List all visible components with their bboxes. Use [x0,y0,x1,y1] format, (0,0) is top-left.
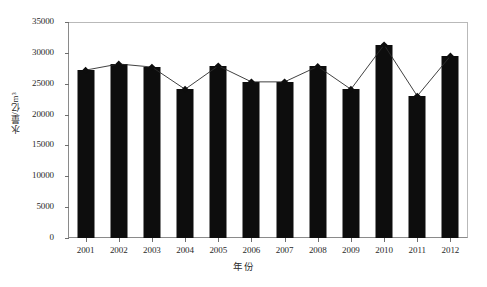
bar-slot [268,22,301,238]
chart-container: 水量/亿m³ 050001000015000200002500030000350… [0,0,487,287]
bar-series [69,22,467,238]
bar-slot [434,22,467,238]
x-axis-tick-mark [351,238,352,242]
y-axis-tick-label: 20000 [2,110,54,119]
bar-slot [169,22,202,238]
bar [210,66,227,238]
bar-slot [235,22,268,238]
x-axis-tick-mark [450,238,451,242]
bar-slot [135,22,168,238]
x-axis-tick-mark [185,238,186,242]
bar [309,66,326,238]
x-axis-title: 年份 [0,262,487,273]
x-axis-tick-mark [251,238,252,242]
y-axis-tick-label: 30000 [2,48,54,57]
x-axis-tick-mark [318,238,319,242]
x-axis-tick-mark [86,238,87,242]
bar-slot [202,22,235,238]
bar [442,56,459,238]
bar [110,64,127,238]
bar [409,96,426,238]
x-axis-tick-label: 2012 [430,245,470,255]
bar-slot [102,22,135,238]
x-axis-tick-mark [152,238,153,242]
y-axis-tick-label: 15000 [2,140,54,149]
bar [143,67,160,238]
x-axis-tick-mark [417,238,418,242]
x-axis-tick-mark [285,238,286,242]
bar [243,82,260,238]
y-axis-tick-label: 25000 [2,79,54,88]
y-axis: 05000100001500020000250003000035000 [0,0,68,287]
bar-slot [301,22,334,238]
bar [77,70,94,238]
bar [276,82,293,238]
bar [376,45,393,238]
y-axis-tick-label: 10000 [2,171,54,180]
y-axis-tick-label: 5000 [2,202,54,211]
bar-slot [69,22,102,238]
bar [177,89,194,238]
bar-slot [401,22,434,238]
x-axis-tick-mark [384,238,385,242]
x-axis-tick-mark [218,238,219,242]
y-axis-tick-mark [65,238,69,239]
x-axis-tick-mark [119,238,120,242]
bar-slot [334,22,367,238]
bar-slot [368,22,401,238]
y-axis-tick-label: 35000 [2,17,54,26]
y-axis-tick-label: 0 [2,233,54,242]
bar [342,89,359,238]
